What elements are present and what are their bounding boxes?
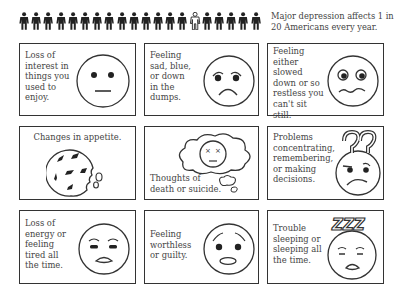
card-energy: Loss of energy or feeling tired all the … xyxy=(19,210,136,284)
person-icon xyxy=(91,12,103,30)
svg-text:×: × xyxy=(205,147,211,155)
person-icon xyxy=(128,12,140,30)
person-icon xyxy=(250,12,262,30)
card-text: Feeling either slowed down or so restles… xyxy=(273,46,325,120)
headline: Major depression affects 1 in 20 America… xyxy=(271,11,396,32)
person-icon xyxy=(79,12,91,30)
card-text: Loss of energy or feeling tired all the … xyxy=(25,218,73,271)
confused-face-icon xyxy=(330,129,384,199)
card-text: Feeling worthless or guilty. xyxy=(150,229,198,261)
person-icon xyxy=(176,12,188,30)
cookie-icon xyxy=(46,147,116,199)
person-icon xyxy=(55,12,67,30)
person-outline-icon xyxy=(189,12,201,30)
card-worthless: Feeling worthless or guilty. xyxy=(144,210,259,284)
card-loss-of-interest: Loss of interest in things you used to e… xyxy=(19,43,136,116)
svg-text:ZZZ: ZZZ xyxy=(331,216,366,234)
card-text: Feeling sad, blue, or down in the dumps. xyxy=(150,50,194,103)
card-sad: Feeling sad, blue, or down in the dumps. xyxy=(144,43,259,116)
people-icon-row xyxy=(18,12,262,30)
card-slowed-restless: Feeling either slowed down or so restles… xyxy=(267,43,384,116)
card-appetite: Changes in appetite. xyxy=(19,126,136,200)
card-sleep: Trouble sleeping or sleeping all the tim… xyxy=(267,210,384,284)
sleeping-face-icon: ZZZ xyxy=(324,213,382,283)
card-death-thoughts: × × Thoughts of death or suicide. xyxy=(144,126,259,200)
card-text: Changes in appetite. xyxy=(20,132,135,143)
card-text: Trouble sleeping or sleeping all the tim… xyxy=(273,223,323,265)
card-concentrating: Problems concentrating, remembering, or … xyxy=(267,126,384,200)
svg-text:×: × xyxy=(215,147,221,155)
person-icon xyxy=(30,12,42,30)
person-icon xyxy=(201,12,213,30)
card-text: Thoughts of death or suicide. xyxy=(150,173,222,194)
sad-face-icon xyxy=(201,53,257,109)
person-icon xyxy=(116,12,128,30)
person-icon xyxy=(213,12,225,30)
person-icon xyxy=(152,12,164,30)
person-icon xyxy=(237,12,249,30)
person-icon xyxy=(42,12,54,30)
person-icon xyxy=(164,12,176,30)
card-text: Problems concentrating, remembering, or … xyxy=(273,132,335,185)
card-text: Loss of interest in things you used to e… xyxy=(25,50,73,103)
tired-face-icon xyxy=(76,221,132,277)
person-icon xyxy=(18,12,30,30)
worried-face-icon xyxy=(201,221,257,277)
person-icon xyxy=(103,12,115,30)
neutral-face-icon xyxy=(75,53,131,109)
person-icon xyxy=(67,12,79,30)
person-icon xyxy=(140,12,152,30)
person-icon xyxy=(225,12,237,30)
wide-eyed-face-icon xyxy=(325,53,381,109)
